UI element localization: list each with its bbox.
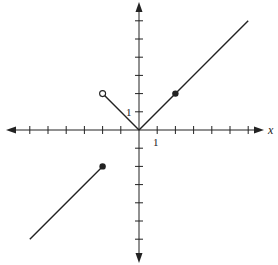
- y-axis-up-arrow-icon: [136, 2, 143, 12]
- y-tick-label-1: 1: [126, 106, 132, 118]
- segment-left: [30, 166, 103, 239]
- function-graph: x 1 1: [0, 0, 278, 265]
- x-axis-right-arrow-icon: [254, 127, 264, 134]
- closed-point-marker: [99, 163, 105, 169]
- y-axis-down-arrow-icon: [136, 253, 143, 263]
- x-axis-label: x: [267, 123, 274, 137]
- closed-point-marker: [172, 90, 178, 96]
- open-point-marker: [100, 91, 106, 97]
- segment-v-right: [139, 21, 248, 130]
- x-axis-left-arrow-icon: [6, 127, 16, 134]
- x-tick-label-1: 1: [153, 136, 159, 148]
- segment-v-left: [103, 94, 139, 130]
